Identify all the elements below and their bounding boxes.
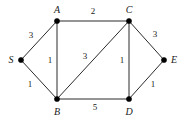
edge-weight-s-b: 1 <box>28 80 33 89</box>
graph-node-s[interactable] <box>18 57 23 62</box>
graph-node-c[interactable] <box>126 18 131 23</box>
node-label-c: C <box>126 5 133 15</box>
edge-weight-s-a: 3 <box>29 31 34 40</box>
edge-weight-b-c: 3 <box>83 52 88 61</box>
graph-node-e[interactable] <box>161 57 166 62</box>
graph-edge-b-c <box>57 21 129 99</box>
edge-weight-c-e: 3 <box>153 30 158 39</box>
node-label-d: D <box>125 107 132 117</box>
edge-weight-c-d: 1 <box>120 56 125 65</box>
graph-diagram: 312131531SACBDE <box>0 0 185 123</box>
graph-edge-c-e <box>129 21 164 60</box>
graph-node-a[interactable] <box>54 18 59 23</box>
edge-weight-d-e: 1 <box>151 80 156 89</box>
node-label-a: A <box>54 5 60 15</box>
node-label-e: E <box>171 55 177 65</box>
graph-edge-d-e <box>129 60 164 99</box>
edge-weight-b-d: 5 <box>93 103 98 112</box>
node-label-s: S <box>9 55 14 65</box>
node-label-b: B <box>54 107 60 117</box>
edge-weight-a-c: 2 <box>91 7 96 16</box>
edges-layer <box>21 21 164 99</box>
edge-weight-a-b: 1 <box>48 56 53 65</box>
graph-node-d[interactable] <box>126 96 131 101</box>
graph-node-b[interactable] <box>54 96 59 101</box>
graph-edge-s-b <box>21 60 57 99</box>
